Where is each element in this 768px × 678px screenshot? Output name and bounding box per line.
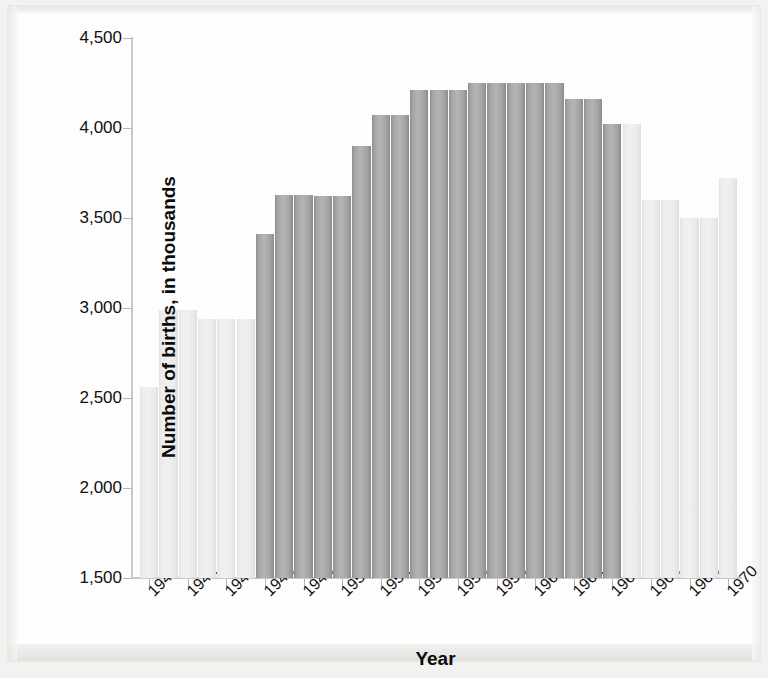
bar-1964 bbox=[603, 124, 621, 578]
bar-1950 bbox=[333, 196, 351, 578]
y-axis-tick-label: 3,000 bbox=[46, 299, 122, 316]
bar-1948 bbox=[294, 195, 312, 578]
bar-1944 bbox=[217, 319, 235, 578]
y-axis-tick-label-wrap: 3,500 bbox=[36, 218, 122, 219]
scan-page-background: 4,5004,0003,5003,0002,5002,0001,500 1940… bbox=[0, 0, 768, 678]
bar-1949 bbox=[314, 196, 332, 578]
bar-1945 bbox=[237, 319, 255, 578]
y-axis-tick-label: 2,500 bbox=[46, 389, 122, 406]
x-axis-title: Year bbox=[131, 648, 740, 670]
y-axis-tick-label: 4,000 bbox=[46, 119, 122, 136]
bar-1946 bbox=[256, 234, 274, 578]
y-axis-tick-label: 4,500 bbox=[46, 29, 122, 46]
plot-area: Number of births, in thousands bbox=[131, 38, 740, 578]
bar-1966 bbox=[642, 200, 660, 578]
bar-1954 bbox=[410, 90, 428, 578]
y-axis-tick-label-wrap: 3,000 bbox=[36, 308, 122, 309]
bar-1970 bbox=[719, 178, 737, 578]
bar-1962 bbox=[565, 99, 583, 578]
bar-1963 bbox=[584, 99, 602, 578]
bar-1967 bbox=[661, 200, 679, 578]
bar-1943 bbox=[198, 319, 216, 578]
y-axis-title: Number of births, in thousands bbox=[158, 117, 180, 517]
y-axis-tick-label-wrap: 2,000 bbox=[36, 488, 122, 489]
y-axis-tick-label-wrap: 2,500 bbox=[36, 398, 122, 399]
y-axis-tick-label-wrap: 4,500 bbox=[36, 38, 122, 39]
bar-1955 bbox=[430, 90, 448, 578]
bar-1951 bbox=[352, 146, 370, 578]
bar-1968 bbox=[680, 218, 698, 578]
bar-1961 bbox=[545, 83, 563, 578]
bar-1942 bbox=[179, 310, 197, 578]
bar-1960 bbox=[526, 83, 544, 578]
y-axis-tick bbox=[123, 578, 132, 579]
bar-1957 bbox=[468, 83, 486, 578]
y-axis-tick-label-wrap: 1,500 bbox=[36, 578, 122, 579]
bar-1947 bbox=[275, 195, 293, 578]
y-axis-tick-label: 3,500 bbox=[46, 209, 122, 226]
bar-1959 bbox=[507, 83, 525, 578]
y-axis-tick-label: 2,000 bbox=[46, 479, 122, 496]
y-axis-tick-label: 1,500 bbox=[46, 569, 122, 586]
bar-1956 bbox=[449, 90, 467, 578]
bar-1969 bbox=[700, 218, 718, 578]
bar-1965 bbox=[623, 124, 641, 578]
bar-1958 bbox=[487, 83, 505, 578]
bar-chart: 4,5004,0003,5003,0002,5002,0001,500 1940… bbox=[0, 0, 768, 678]
bar-1952 bbox=[372, 115, 390, 578]
y-axis-tick-label-wrap: 4,000 bbox=[36, 128, 122, 129]
bar-1953 bbox=[391, 115, 409, 578]
bar-1940 bbox=[140, 387, 158, 578]
